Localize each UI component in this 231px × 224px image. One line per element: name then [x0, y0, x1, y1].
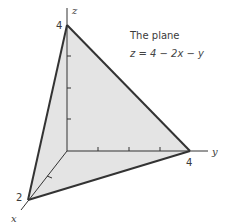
plane-equation: z = 4 − 2x − y [129, 48, 205, 59]
z-axis-label: z [71, 5, 78, 16]
y-intercept-label: 4 [186, 157, 192, 168]
z-intercept-label: 4 [56, 20, 62, 31]
x-intercept-label: 2 [16, 192, 22, 203]
y-axis-label: y [211, 146, 218, 157]
plane-title: The plane [129, 30, 180, 41]
x-axis-label: x [11, 213, 17, 224]
plane-diagram: z y x 4 4 2 The plane z = 4 − 2x − y [0, 0, 231, 224]
